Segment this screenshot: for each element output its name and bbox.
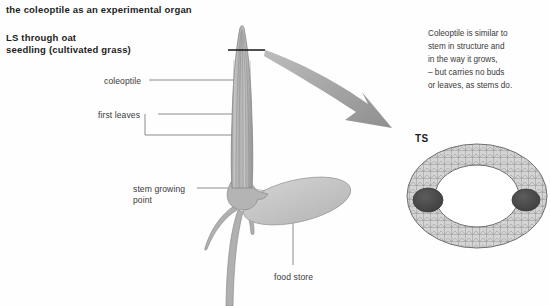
root-system [205,206,254,306]
ts-vascular-bundle-right [512,189,540,211]
seedling-illustration [0,0,550,306]
diagram-page: the coleoptile as an experimental organ … [0,0,550,306]
ts-vascular-bundle-left [413,188,443,212]
leader-lines [145,80,293,265]
section-pointer-arrow [264,50,392,128]
ts-cross-section [407,144,547,248]
ts-hollow-core [435,165,519,227]
primary-root [226,210,243,306]
